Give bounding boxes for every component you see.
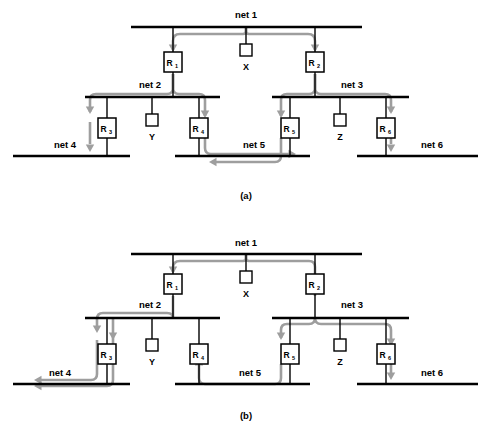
resistor-label: R — [100, 350, 106, 360]
figure-canvas: net 1net 2net 3net 4net 5net 6XYZR1R2R3R… — [0, 0, 493, 445]
resistor-b-r5: R5 — [281, 344, 299, 364]
resistor-b-r6: R6 — [377, 344, 395, 364]
pin-square — [334, 339, 346, 351]
resistor-subscript: 3 — [109, 129, 112, 135]
net-label: net 3 — [341, 299, 363, 310]
pin-label: Z — [337, 357, 343, 367]
resistor-subscript: 6 — [388, 129, 391, 135]
pin-label: Y — [149, 357, 155, 367]
resistor-subscript: 1 — [175, 63, 178, 69]
resistor-b-r3: R3 — [98, 344, 116, 364]
net-label: net 5 — [239, 367, 262, 378]
resistor-subscript: 3 — [109, 355, 112, 361]
resistor-label: R — [283, 350, 289, 360]
resistor-subscript: 2 — [317, 285, 320, 291]
net-label: net 6 — [421, 139, 443, 150]
resistor-b-r4: R4 — [190, 344, 208, 364]
resistor-a-r1: R1 — [164, 52, 182, 72]
pin-label: Z — [337, 132, 343, 142]
net-label: net 5 — [243, 139, 266, 150]
pin-label: X — [243, 62, 249, 72]
net-label: net 6 — [421, 367, 443, 378]
net-label: net 4 — [49, 367, 72, 378]
pin-square — [146, 114, 158, 126]
resistor-a-r6: R6 — [377, 118, 395, 138]
pin-square — [334, 114, 346, 126]
resistor-label: R — [192, 350, 198, 360]
resistor-subscript: 5 — [292, 129, 295, 135]
net-label: net 3 — [341, 79, 363, 90]
pin-label: X — [243, 289, 249, 299]
resistor-label: R — [166, 58, 172, 68]
net-label: net 2 — [139, 79, 161, 90]
resistor-label: R — [379, 350, 385, 360]
resistor-a-r4: R4 — [190, 118, 208, 138]
resistor-a-r2: R2 — [306, 52, 324, 72]
resistor-b-r2: R2 — [306, 274, 324, 294]
resistor-subscript: 6 — [388, 355, 391, 361]
pin-square — [240, 271, 252, 283]
panel-caption-a: (a) — [240, 190, 252, 201]
resistor-subscript: 1 — [175, 285, 178, 291]
net-label: net 2 — [139, 299, 161, 310]
resistor-subscript: 2 — [317, 63, 320, 69]
pin-label: Y — [149, 132, 155, 142]
resistor-a-r5: R5 — [281, 118, 299, 138]
resistor-label: R — [308, 280, 314, 290]
resistor-label: R — [166, 280, 172, 290]
resistor-label: R — [283, 124, 289, 134]
resistor-a-r3: R3 — [98, 118, 116, 138]
panel-caption-b: (b) — [240, 410, 252, 421]
resistor-label: R — [379, 124, 385, 134]
net-label: net 1 — [235, 9, 258, 20]
resistor-label: R — [100, 124, 106, 134]
net-label: net 4 — [54, 139, 77, 150]
resistor-label: R — [192, 124, 198, 134]
net-label: net 1 — [235, 237, 258, 248]
resistor-label: R — [308, 58, 314, 68]
pin-square — [146, 339, 158, 351]
pin-square — [240, 44, 252, 56]
resistor-subscript: 5 — [292, 355, 295, 361]
resistor-b-r1: R1 — [164, 274, 182, 294]
